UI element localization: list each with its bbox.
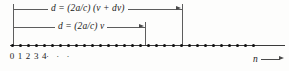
number-line-dot (35, 44, 38, 47)
number-line-dot (244, 44, 247, 47)
number-line-dot (180, 44, 183, 47)
axis-tick-label-0: 0 (10, 51, 15, 62)
lower-dimension-arrowhead (139, 24, 144, 28)
axis-ellipsis: · · · (46, 51, 72, 62)
number-line-dot (83, 44, 86, 47)
number-line-dot (59, 44, 62, 47)
axis-tick-label-1: 1 (18, 51, 23, 62)
number-line-dot (163, 44, 166, 47)
number-line-dot (11, 44, 14, 47)
axis-tick-label-3: 3 (34, 51, 39, 62)
number-line-dot (147, 44, 150, 47)
number-line-dot (139, 44, 142, 47)
number-line-dot (228, 44, 231, 47)
number-line-dot (19, 44, 22, 47)
number-line-dot (123, 44, 126, 47)
axis-variable-arrowhead (279, 56, 284, 60)
number-line-dot (155, 44, 158, 47)
number-line-dot (115, 44, 118, 47)
number-line-dot (27, 44, 30, 47)
number-line-dot (131, 44, 134, 47)
number-line-dot (75, 44, 78, 47)
upper-dimension-arrowhead (176, 6, 181, 10)
number-line-dot (252, 44, 255, 47)
lower-dimension-right-extension (145, 22, 146, 46)
axis-variable-arrow-shaft (261, 59, 280, 60)
number-line-dot (172, 44, 175, 47)
number-line-dot (91, 44, 94, 47)
number-line-dot (220, 44, 223, 47)
number-line-dot (188, 44, 191, 47)
number-line-dot (107, 44, 110, 47)
axis-variable-label: n (253, 54, 258, 64)
number-line-dot (51, 44, 54, 47)
number-line-dot (43, 44, 46, 47)
number-line-dot (236, 44, 239, 47)
upper-dimension-label: d = (2a/c) (ν + dν) (48, 3, 128, 13)
figure-number-line-diagram: d = (2a/c) (ν + dν) d = (2a/c) ν 01234 ·… (0, 0, 289, 71)
number-line-dot (99, 44, 102, 47)
number-line-dot (67, 44, 70, 47)
number-line-dot (204, 44, 207, 47)
axis-tick-label-2: 2 (26, 51, 31, 62)
lower-dimension-label: d = (2a/c) ν (55, 21, 107, 31)
upper-dimension-right-extension (182, 4, 183, 46)
number-line-dot (196, 44, 199, 47)
upper-dimension-left-extension (13, 4, 14, 46)
number-line-dot (212, 44, 215, 47)
